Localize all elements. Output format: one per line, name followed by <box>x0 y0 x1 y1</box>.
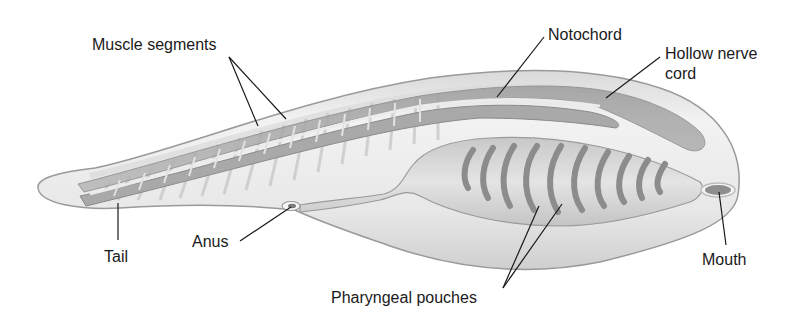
label-mouth: Mouth <box>702 250 746 269</box>
label-notochord: Notochord <box>548 25 622 44</box>
label-hollow-nerve-cord-line2: cord <box>665 64 696 83</box>
leader-muscle-segments-a <box>229 57 258 126</box>
label-pharyngeal-pouches: Pharyngeal pouches <box>331 288 477 307</box>
leader-muscle-segments-b <box>229 57 286 119</box>
label-tail: Tail <box>104 247 128 266</box>
label-muscle-segments: Muscle segments <box>92 35 217 54</box>
leader-anus <box>240 207 291 241</box>
label-hollow-nerve-cord-line1: Hollow nerve <box>665 44 757 63</box>
label-anus: Anus <box>192 232 228 251</box>
lancelet-diagram: Muscle segments Notochord Hollow nerve c… <box>0 0 801 330</box>
